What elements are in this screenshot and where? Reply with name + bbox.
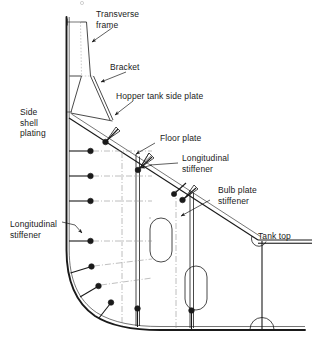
label-longitudinal-stiffener-left: Longitudinal stiffener: [10, 219, 57, 240]
label-bulb-plate-stiffener: Bulb plate stiffener: [218, 185, 257, 206]
shell-longitudinals: [69, 148, 194, 329]
label-bracket: Bracket: [110, 62, 140, 73]
transverse-frame-member: [67, 19, 91, 77]
label-floor-plate: Floor plate: [160, 133, 201, 144]
label-longitudinal-stiffener-upper: Longitudinal stiffener: [182, 153, 229, 174]
label-side-shell-plating: Side shell plating: [20, 107, 46, 139]
bracket-member: [67, 76, 114, 121]
diagram-drawing: .solid { fill: none; stroke: #1a1a1a; st…: [0, 0, 315, 337]
longitudinal-7: [99, 300, 114, 318]
longitudinal-1: [69, 148, 152, 154]
label-transverse-frame: Transverse frame: [96, 9, 139, 30]
section-centre-lines: [122, 152, 176, 328]
floor-plates: [136, 154, 207, 328]
ship-section-diagram: .solid { fill: none; stroke: #1a1a1a; st…: [0, 0, 315, 337]
longitudinal-6: [80, 278, 152, 297]
label-tank-top: Tank top: [258, 231, 291, 242]
label-hopper-tank-side-plate: Hopper tank side plate: [116, 91, 203, 102]
centre-girder: [250, 241, 274, 330]
top-registration-tick: [80, 1, 83, 4]
